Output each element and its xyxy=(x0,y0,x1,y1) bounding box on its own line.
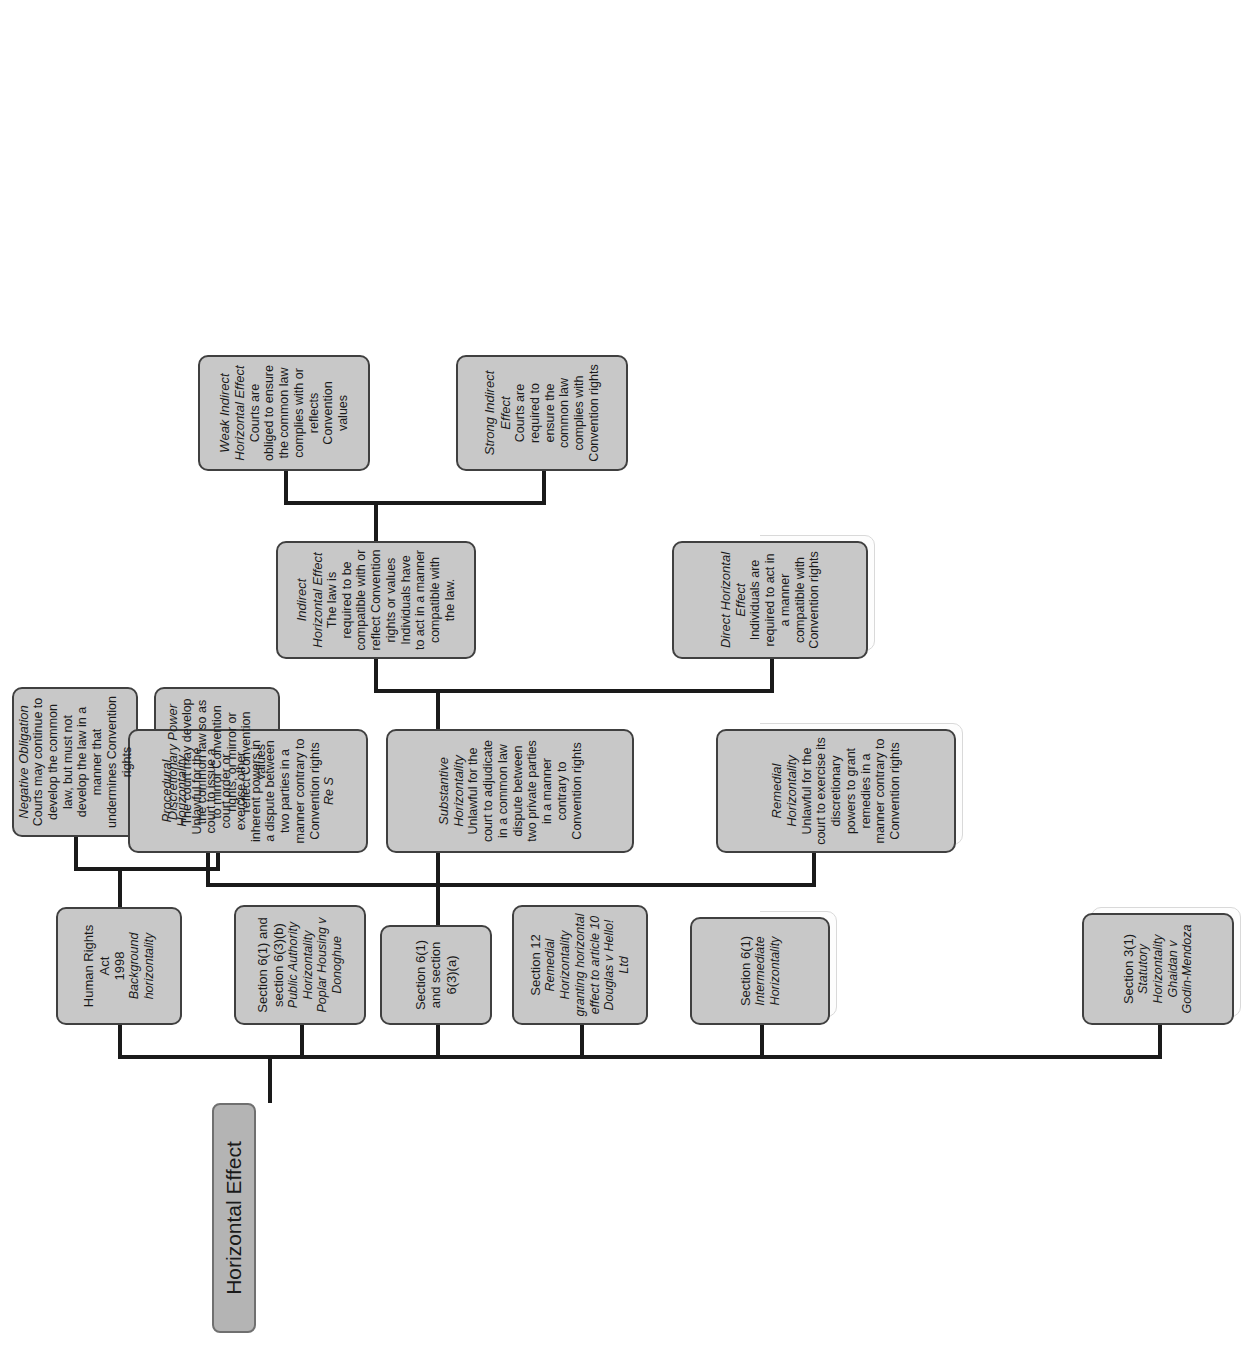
connector-spine-s12 xyxy=(580,1025,584,1059)
connector-spine-s6-3-a xyxy=(436,1025,440,1059)
connector-indirect-out xyxy=(374,501,378,541)
s12-case: Douglas v Hello! Ltd xyxy=(602,913,632,1017)
direct-body: Individuals are required to act in a man… xyxy=(748,549,822,651)
connector-hra-negative xyxy=(74,837,78,871)
s12-title: Section 12 xyxy=(528,934,543,995)
weak-indirect-title: Weak Indirect Horizontal Effect xyxy=(217,363,248,463)
s6-3-b-title: Section 6(1) and section 6(3)(b) xyxy=(255,913,286,1017)
connector-s63a-fork xyxy=(206,883,812,887)
node-strong-indirect-effect[interactable]: Strong Indirect Effect Courts are requir… xyxy=(456,355,628,471)
procedural-case: Re S xyxy=(322,777,337,805)
connector-to-strong xyxy=(542,471,546,505)
connector-effects-fork xyxy=(374,689,774,693)
indirect-title: Indirect Horizontal Effect xyxy=(294,549,325,651)
remedial-body: Unlawful for the court to exercise its d… xyxy=(800,737,903,845)
connector-hra-fork xyxy=(74,867,220,871)
remedial-title: Remedial Horizontality xyxy=(769,737,800,845)
connector-root-stem xyxy=(268,1057,272,1103)
s6-1-subtitle: Intermediate Horizontality xyxy=(753,925,783,1017)
connector-to-weak xyxy=(284,471,288,505)
s6-1-title: Section 6(1) xyxy=(738,936,753,1006)
node-direct-horizontal-effect[interactable]: Direct Horizontal Effect Individuals are… xyxy=(672,541,868,659)
hra-subtitle: Background horizontality xyxy=(127,915,157,1017)
node-root-horizontal-effect[interactable]: Horizontal Effect xyxy=(212,1103,256,1333)
s3-1-title: Section 3(1) xyxy=(1121,934,1136,1004)
node-remedial-horizontality[interactable]: Remedial Horizontality Unlawful for the … xyxy=(716,729,956,853)
connector-to-indirect xyxy=(374,659,378,693)
connector-main-spine xyxy=(118,1055,1158,1059)
node-section-6-1-and-6-3-a[interactable]: Section 6(1) and section 6(3)(a) xyxy=(380,925,492,1025)
node-negative-obligation[interactable]: Negative Obligation Courts may continue … xyxy=(12,687,138,837)
connector-spine-s3-1 xyxy=(1158,1025,1162,1059)
connector-substantive-out xyxy=(436,689,440,729)
s6-3-b-subtitle: Public Authority Horizontality xyxy=(286,913,316,1017)
negative-obligation-title: Negative Obligation xyxy=(16,705,31,818)
indirect-body: The law is required to be compatible wit… xyxy=(325,549,458,651)
node-root-label: Horizontal Effect xyxy=(222,1141,247,1295)
weak-indirect-body: Courts are obliged to ensure the common … xyxy=(248,363,351,463)
connector-hra-out xyxy=(118,867,122,907)
connector-to-procedural xyxy=(206,853,210,887)
connector-to-remedial xyxy=(812,853,816,887)
connector-to-substantive xyxy=(436,853,440,887)
direct-title: Direct Horizontal Effect xyxy=(718,549,749,651)
connector-spine-hra xyxy=(118,1025,122,1059)
hra-title: Human Rights Act xyxy=(81,915,112,1017)
connector-spine-s6-1 xyxy=(760,1025,764,1059)
node-indirect-horizontal-effect[interactable]: Indirect Horizontal Effect The law is re… xyxy=(276,541,476,659)
substantive-title: Substantive Horizontality xyxy=(436,737,467,845)
node-human-rights-act[interactable]: Human Rights Act 1998 Background horizon… xyxy=(56,907,182,1025)
node-weak-indirect-horizontal-effect[interactable]: Weak Indirect Horizontal Effect Courts a… xyxy=(198,355,370,471)
hra-year: 1998 xyxy=(112,952,127,981)
node-section-6-1-and-6-3-b[interactable]: Section 6(1) and section 6(3)(b) Public … xyxy=(234,905,366,1025)
s6-3-a-title: Section 6(1) and section 6(3)(a) xyxy=(413,933,459,1017)
connector-to-direct xyxy=(770,659,774,693)
connector-indirect-fork xyxy=(284,501,546,505)
node-section-6-1[interactable]: Section 6(1) Intermediate Horizontality xyxy=(690,917,830,1025)
node-substantive-horizontality[interactable]: Substantive Horizontality Unlawful for t… xyxy=(386,729,634,853)
connector-s63a-out xyxy=(436,883,440,925)
procedural-body: Unlawful for the court to issue a court … xyxy=(190,737,323,845)
strong-indirect-title: Strong Indirect Effect xyxy=(482,363,513,463)
s3-1-case: Ghaidan v Godin-Mendoza xyxy=(1166,921,1196,1017)
procedural-title: Procedural Horizontality xyxy=(159,737,190,845)
strong-indirect-body: Courts are required to ensure the common… xyxy=(513,363,602,463)
s3-1-subtitle: Statutory Horizontality xyxy=(1136,921,1166,1017)
negative-obligation-body: Courts may continue to develop the commo… xyxy=(31,695,134,829)
s6-3-b-case: Poplar Housing v Donoghue xyxy=(315,913,345,1017)
substantive-body: Unlawful for the court to adjudicate in … xyxy=(466,737,584,845)
s12-subtitle: Remedial Horizontality granting horizont… xyxy=(543,913,602,1017)
node-section-3-1[interactable]: Section 3(1) Statutory Horizontality Gha… xyxy=(1082,913,1234,1025)
connector-spine-s6-3-b xyxy=(300,1025,304,1059)
node-procedural-horizontality[interactable]: Procedural Horizontality Unlawful for th… xyxy=(128,729,368,853)
node-section-12[interactable]: Section 12 Remedial Horizontality granti… xyxy=(512,905,648,1025)
